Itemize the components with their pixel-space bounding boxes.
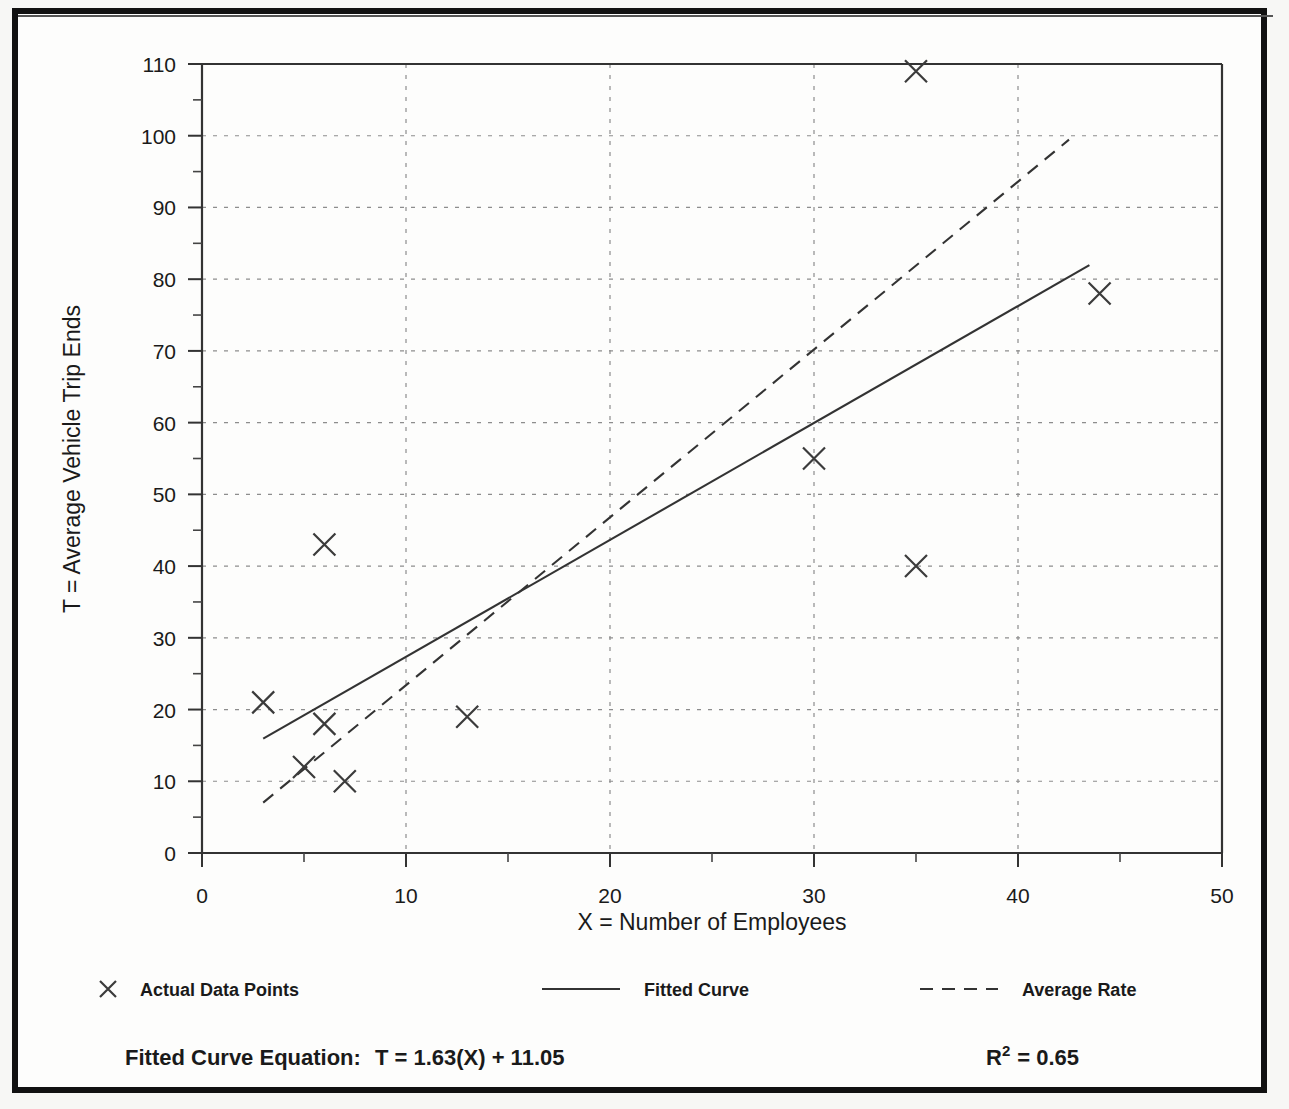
x-marker-icon <box>100 981 116 997</box>
scatter-chart: 0102030405060708090100110 01020304050 X … <box>18 14 1273 1099</box>
axis-ticks <box>188 64 1222 867</box>
legend-item-fitted-curve[interactable]: Fitted Curve <box>542 980 749 1000</box>
legend-item-average-rate[interactable]: Average Rate <box>920 980 1136 1000</box>
r-squared-exponent: 2 <box>1002 1042 1010 1059</box>
y-tick-labels: 0102030405060708090100110 <box>141 53 176 865</box>
y-tick-label: 100 <box>141 125 176 148</box>
data-point-marker <box>313 713 335 735</box>
x-axis-title: X = Number of Employees <box>577 909 846 935</box>
y-tick-label: 80 <box>153 268 176 291</box>
y-axis-title: T = Average Vehicle Trip Ends <box>59 305 85 613</box>
equation-value-text: T = 1.63(X) + 11.05 <box>375 1045 565 1070</box>
footer-annotations: Fitted Curve Equation:T = 1.63(X) + 11.0… <box>125 1042 1079 1070</box>
fitted-curve-line <box>263 265 1089 739</box>
x-tick-labels: 01020304050 <box>196 884 1234 907</box>
data-point-marker <box>252 691 274 713</box>
y-tick-label: 10 <box>153 770 176 793</box>
y-tick-label: 60 <box>153 412 176 435</box>
y-tick-label: 90 <box>153 196 176 219</box>
data-point-markers <box>252 60 1110 792</box>
chart-svg: 0102030405060708090100110 01020304050 X … <box>18 14 1273 1099</box>
x-tick-label: 20 <box>598 884 621 907</box>
legend: Actual Data Points Fitted Curve Average … <box>100 980 1136 1000</box>
y-tick-label: 70 <box>153 340 176 363</box>
y-tick-label: 50 <box>153 483 176 506</box>
y-tick-label: 30 <box>153 627 176 650</box>
y-tick-label: 20 <box>153 699 176 722</box>
data-point-marker <box>1089 283 1111 305</box>
average-rate-line <box>263 140 1069 803</box>
legend-item-actual-data-points[interactable]: Actual Data Points <box>100 980 299 1000</box>
y-tick-label: 0 <box>164 842 176 865</box>
y-tick-label: 110 <box>143 53 176 76</box>
legend-label-average-rate: Average Rate <box>1022 980 1136 1000</box>
y-tick-label: 40 <box>153 555 176 578</box>
chart-page: 0102030405060708090100110 01020304050 X … <box>0 0 1289 1109</box>
x-tick-label: 10 <box>394 884 417 907</box>
legend-label-actual-data-points: Actual Data Points <box>140 980 299 1000</box>
equation-label-text: Fitted Curve Equation: <box>125 1045 361 1070</box>
fitted-curve-equation-label: Fitted Curve Equation:T = 1.63(X) + 11.0… <box>125 1045 564 1070</box>
data-point-marker <box>313 534 335 556</box>
x-tick-label: 30 <box>802 884 825 907</box>
grid-lines <box>202 64 1222 853</box>
x-tick-label: 50 <box>1210 884 1233 907</box>
x-tick-label: 0 <box>196 884 208 907</box>
r-squared-base: R <box>986 1045 1002 1070</box>
data-point-marker <box>293 756 315 778</box>
x-tick-label: 40 <box>1006 884 1029 907</box>
r-squared-value: = 0.65 <box>1017 1045 1079 1070</box>
legend-label-fitted-curve: Fitted Curve <box>644 980 749 1000</box>
chart-frame: 0102030405060708090100110 01020304050 X … <box>12 8 1267 1093</box>
r-squared-annotation: R2= 0.65 <box>986 1042 1079 1070</box>
